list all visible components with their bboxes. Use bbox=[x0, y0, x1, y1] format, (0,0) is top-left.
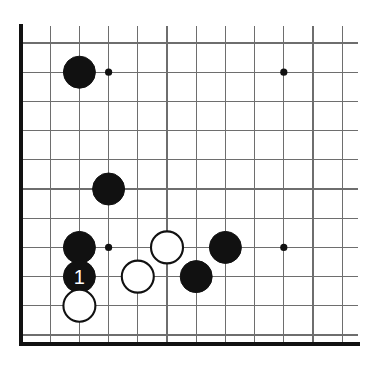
black-stone bbox=[209, 231, 241, 263]
stone-disc bbox=[93, 173, 125, 205]
black-stone bbox=[63, 231, 95, 263]
stone-disc bbox=[122, 261, 154, 293]
stone-disc bbox=[151, 231, 183, 263]
white-stone bbox=[63, 290, 95, 322]
white-stone bbox=[122, 261, 154, 293]
black-stone bbox=[93, 173, 125, 205]
white-stone bbox=[151, 231, 183, 263]
star-point bbox=[280, 244, 287, 251]
move-number-label: 1 bbox=[74, 266, 85, 288]
stone-disc bbox=[63, 56, 95, 88]
star-point bbox=[105, 69, 112, 76]
stone-disc bbox=[63, 231, 95, 263]
stone-disc bbox=[209, 231, 241, 263]
stone-disc bbox=[180, 261, 212, 293]
stone-disc bbox=[63, 290, 95, 322]
black-stone bbox=[180, 261, 212, 293]
goban-canvas: 1 bbox=[0, 0, 380, 367]
star-point bbox=[280, 69, 287, 76]
go-board-diagram: 1 bbox=[0, 0, 380, 367]
star-point bbox=[105, 244, 112, 251]
black-stone bbox=[63, 56, 95, 88]
black-stone: 1 bbox=[63, 261, 95, 293]
